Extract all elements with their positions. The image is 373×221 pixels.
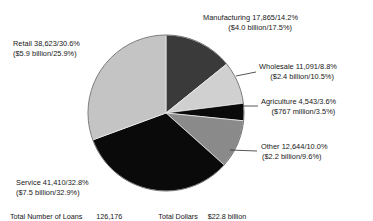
slice-label-manufacturing-line1: Manufacturing 17,865/14.2% [203,13,298,23]
slice-label-retail-line1: Retail 38,623/30.6% [13,39,80,49]
slice-label-other-line1: Other 12,644/10.0% [261,142,328,152]
footer-loans-value: 126,176 [96,212,122,221]
footer-dollars-label: Total Dollars [158,212,198,221]
slice-label-agriculture-line1: Agriculture 4,543/3.6% [261,97,336,107]
slice-label-wholesale-line1: Wholesale 11,091/8.8% [259,62,337,72]
slice-label-retail: Retail 38,623/30.6% ($5.9 billion/25.9%) [13,39,80,59]
pie-chart-figure: Manufacturing 17,865/14.2% ($4.0 billion… [0,0,373,221]
chart-footer-totals: Total Number of Loans126,176Total Dollar… [10,212,246,221]
slice-label-other: Other 12,644/10.0% ($2.2 billion/9.6%) [261,142,328,162]
slice-label-agriculture-line2: ($767 million/3.5%) [261,107,336,117]
slice-label-retail-line2: ($5.9 billion/25.9%) [13,49,80,59]
leader-line-wholesale [236,72,256,76]
slice-label-other-line2: ($2.2 billion/9.6%) [261,152,328,162]
footer-dollars-value: $22.8 billion [208,212,246,221]
slice-label-service-line2: ($7.5 billion/32.9%) [16,188,89,198]
slice-label-wholesale-line2: ($2.4 billion/10.5%) [259,72,337,82]
slice-label-service-line1: Service 41,410/32.8% [16,178,89,188]
footer-loans-label: Total Number of Loans [10,212,82,221]
slice-label-wholesale: Wholesale 11,091/8.8% ($2.4 billion/10.5… [259,62,337,82]
slice-label-manufacturing: Manufacturing 17,865/14.2% ($4.0 billion… [203,13,298,33]
slice-label-agriculture: Agriculture 4,543/3.6% ($767 million/3.5… [261,97,336,117]
slice-label-manufacturing-line2: ($4.0 billion/17.5%) [203,23,298,33]
slice-label-service: Service 41,410/32.8% ($7.5 billion/32.9%… [16,178,89,198]
